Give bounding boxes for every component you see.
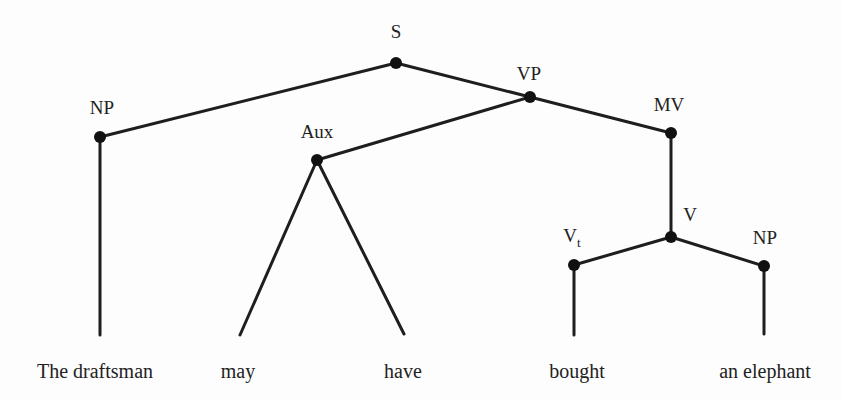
node-dot	[665, 231, 677, 243]
node-label-vt: Vt	[563, 226, 580, 249]
node-dot	[665, 127, 677, 139]
node-label-vp: VP	[517, 64, 541, 83]
tree-edge	[574, 237, 671, 265]
leaf-edge	[240, 160, 317, 335]
node-label-v: V	[683, 205, 697, 224]
node-label-np1: NP	[90, 98, 114, 117]
node-label-aux: Aux	[301, 122, 334, 141]
node-dot	[311, 154, 323, 166]
node-dot	[524, 91, 536, 103]
terminal-word: have	[384, 361, 422, 381]
node-dot	[568, 259, 580, 271]
node-label-mv: MV	[654, 95, 685, 114]
terminal-word: may	[221, 361, 255, 381]
terminal-word: The draftsman	[37, 361, 153, 381]
terminal-word: bought	[549, 361, 605, 381]
node-label-s: S	[391, 22, 402, 41]
terminal-word: an elephant	[719, 361, 811, 381]
tree-edge	[100, 63, 396, 137]
leaf-edge	[317, 160, 404, 334]
tree-edge	[671, 237, 764, 266]
tree-edge	[317, 97, 530, 160]
node-label-np2: NP	[753, 228, 777, 247]
node-dot	[390, 57, 402, 69]
tree-edge	[396, 63, 530, 97]
node-dot	[758, 260, 770, 272]
node-dot	[94, 131, 106, 143]
syntax-tree-lines	[0, 0, 841, 400]
tree-edge	[530, 97, 671, 133]
